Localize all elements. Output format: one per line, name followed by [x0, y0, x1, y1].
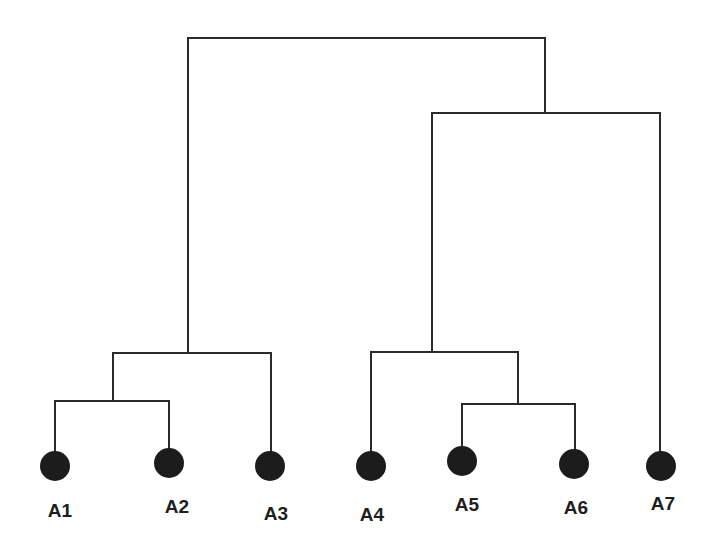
dendrogram-leaf-labels: A1A2A3A4A5A6A7: [48, 493, 675, 525]
merge-link-a4-m3: [371, 352, 518, 451]
leaf-label-a7: A7: [651, 493, 675, 514]
leaf-node-a3: [255, 451, 285, 481]
merge-link-a1-a2: [55, 401, 169, 451]
dendrogram-links: [55, 38, 660, 451]
leaf-label-a5: A5: [455, 494, 480, 515]
leaf-node-a6: [559, 449, 589, 479]
dendrogram-leaf-nodes: [40, 446, 676, 481]
leaf-node-a5: [447, 446, 477, 476]
leaf-label-a4: A4: [360, 504, 385, 525]
leaf-node-a1: [40, 451, 70, 481]
dendrogram-canvas: A1A2A3A4A5A6A7: [0, 0, 701, 550]
merge-link-m4-a7: [432, 113, 660, 451]
leaf-node-a7: [646, 451, 676, 481]
leaf-label-a2: A2: [165, 496, 189, 517]
dendrogram-svg: A1A2A3A4A5A6A7: [0, 0, 701, 550]
leaf-node-a4: [356, 451, 386, 481]
merge-link-m2-m5: [188, 38, 545, 353]
leaf-label-a3: A3: [264, 503, 288, 524]
leaf-label-a6: A6: [564, 497, 588, 518]
leaf-label-a1: A1: [48, 500, 73, 521]
merge-link-a5-a6: [462, 404, 575, 449]
leaf-node-a2: [154, 448, 184, 478]
